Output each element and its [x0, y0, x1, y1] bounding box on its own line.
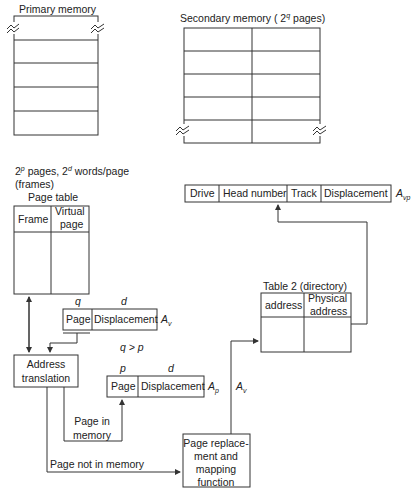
condition-label: q > p — [120, 341, 144, 353]
svg-text:Drive: Drive — [190, 187, 215, 199]
page-table-title: Page table — [28, 191, 78, 203]
av-label: Av — [235, 380, 247, 394]
svg-text:Page: Page — [111, 380, 136, 392]
frames-note: 2p pages, 2d words/page (frames) — [15, 165, 129, 190]
svg-text:(frames): (frames) — [15, 178, 54, 190]
page-replacement-box: Page replace- ment and mapping function — [183, 434, 250, 488]
svg-text:Displacement: Displacement — [141, 380, 205, 392]
svg-text:Frame: Frame — [18, 213, 48, 225]
primary-memory: Primary memory — [6, 3, 108, 135]
svg-text:memory: memory — [73, 429, 112, 441]
secondary-memory-title: Secondary memory ( 2q pages) — [180, 12, 325, 24]
svg-text:d: d — [121, 295, 128, 307]
primary-memory-title: Primary memory — [19, 3, 97, 15]
svg-text:Displacement: Displacement — [94, 313, 158, 325]
svg-text:address: address — [265, 299, 302, 311]
svg-text:Virtual: Virtual — [55, 205, 85, 217]
svg-text:translation: translation — [22, 372, 71, 384]
address-translation-box: Address translation — [14, 355, 78, 387]
svg-text:Head number: Head number — [223, 187, 287, 199]
svg-text:Track: Track — [291, 187, 318, 199]
svg-text:p: p — [119, 362, 126, 374]
svg-text:function: function — [198, 476, 235, 488]
svg-text:Page replace-: Page replace- — [183, 437, 249, 449]
physical-address: p d Page Displacement Ap — [107, 362, 219, 397]
svg-text:Page: Page — [66, 313, 91, 325]
page-in-memory-label: Page in memory — [73, 415, 112, 441]
virtual-address: q d Page Displacement Av — [63, 295, 172, 333]
secondary-memory: Secondary memory ( 2q pages) — [175, 12, 329, 143]
svg-text:q: q — [75, 295, 81, 307]
svg-text:Page in: Page in — [74, 415, 110, 427]
svg-text:Avp: Avp — [395, 187, 411, 202]
svg-text:2p pages, 2d words/page: 2p pages, 2d words/page — [15, 165, 129, 177]
disk-address: Drive Head number Track Displacement Avp — [185, 185, 411, 202]
table2-directory: Table 2 (directory) address Physical add… — [261, 280, 351, 352]
svg-text:Physical: Physical — [308, 292, 347, 304]
svg-text:d: d — [168, 362, 175, 374]
svg-text:page: page — [60, 218, 84, 230]
page-not-in-memory-label: Page not in memory — [50, 458, 145, 470]
svg-text:Av: Av — [160, 313, 172, 327]
svg-text:Address: Address — [27, 358, 66, 370]
svg-text:Displacement: Displacement — [324, 187, 388, 199]
svg-text:mapping: mapping — [196, 463, 236, 475]
page-table: Page table Frame Virtual page — [14, 191, 89, 294]
table2-title: Table 2 (directory) — [263, 280, 347, 292]
svg-text:Ap: Ap — [207, 380, 219, 395]
virtual-memory-diagram: Primary memory Secondary memory ( 2q pag… — [0, 0, 417, 501]
svg-text:address: address — [310, 305, 347, 317]
svg-text:ment and: ment and — [194, 450, 238, 462]
